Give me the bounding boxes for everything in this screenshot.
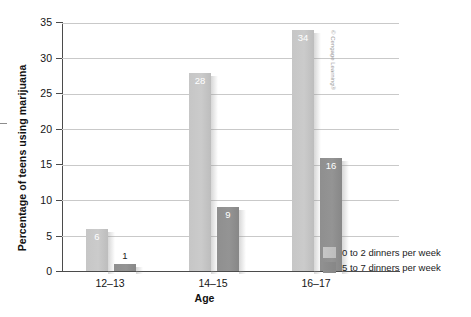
gridline-20 bbox=[62, 129, 399, 130]
bar-shadow bbox=[239, 210, 246, 274]
bar-value-label: 6 bbox=[86, 232, 108, 242]
bar-fill bbox=[292, 30, 314, 271]
y-tick-label-15: 15 bbox=[24, 159, 52, 170]
y-tick-label-35: 35 bbox=[24, 17, 52, 28]
y-tick-label-5: 5 bbox=[24, 231, 52, 242]
bar-value-label: 9 bbox=[217, 210, 239, 220]
plot-area: 6 1 28 9 34 16 bbox=[62, 23, 399, 271]
legend-item-5-to-7-dinners: 5 to 7 dinners per week bbox=[323, 260, 471, 275]
y-tick-label-30: 30 bbox=[24, 53, 52, 64]
bar-14-15-0-to-2-dinners: 28 bbox=[189, 73, 211, 272]
chart-figure: Percentage of teens using marijuana 35 3… bbox=[0, 0, 471, 317]
copyright-credit-text: © Cengage Learning® bbox=[330, 30, 336, 90]
x-axis-title-text: Age bbox=[195, 292, 215, 304]
legend-label: 0 to 2 dinners per week bbox=[342, 247, 441, 258]
bar-value-label: 34 bbox=[292, 33, 314, 43]
bar-value-label: 28 bbox=[189, 76, 211, 86]
chart-legend: 0 to 2 dinners per week 5 to 7 dinners p… bbox=[323, 245, 471, 275]
y-tick-label-0: 0 bbox=[24, 266, 52, 277]
y-tick-mark-0 bbox=[56, 271, 62, 272]
y-tick-label-25: 25 bbox=[24, 88, 52, 99]
x-tick-label-16-17: 16–17 bbox=[271, 277, 361, 289]
y-axis-tick-labels: 35 30 25 20 15 10 5 0 bbox=[20, 0, 52, 317]
bar-value-label: 16 bbox=[320, 161, 342, 171]
x-axis-title: Age bbox=[0, 292, 471, 304]
bar-fill bbox=[189, 73, 211, 272]
bar-12-13-0-to-2-dinners: 6 bbox=[86, 229, 108, 272]
y-tick-label-20: 20 bbox=[24, 124, 52, 135]
x-tick-label-12-13: 12–13 bbox=[65, 277, 155, 289]
bar-shadow bbox=[136, 267, 143, 274]
x-tick-label-14-15: 14–15 bbox=[168, 277, 258, 289]
y-tick-label-10: 10 bbox=[24, 195, 52, 206]
copyright-credit: © Cengage Learning® bbox=[327, 16, 339, 104]
bar-16-17-0-to-2-dinners: 34 bbox=[292, 30, 314, 271]
bar-fill bbox=[114, 264, 136, 271]
gridline-35 bbox=[62, 23, 399, 24]
bar-14-15-5-to-7-dinners: 9 bbox=[217, 207, 239, 271]
legend-swatch-dark bbox=[323, 262, 336, 273]
legend-label: 5 to 7 dinners per week bbox=[342, 262, 441, 273]
bar-12-13-5-to-7-dinners: 1 bbox=[114, 264, 136, 271]
legend-swatch-light bbox=[323, 247, 336, 258]
page-edge-tick-mark bbox=[0, 123, 7, 124]
gridline-25 bbox=[62, 94, 399, 95]
legend-item-0-to-2-dinners: 0 to 2 dinners per week bbox=[323, 245, 471, 260]
bar-value-label: 1 bbox=[114, 251, 136, 261]
gridline-30 bbox=[62, 58, 399, 59]
